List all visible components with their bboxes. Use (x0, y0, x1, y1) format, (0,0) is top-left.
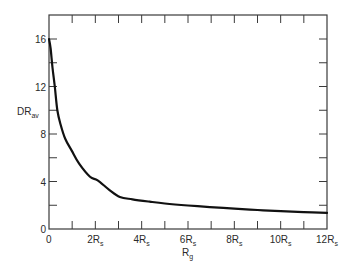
x-axis-label: Rg (182, 247, 193, 261)
data-curve (49, 39, 327, 213)
plot-frame (49, 15, 327, 229)
x-tick-label: 12Rs (316, 234, 338, 247)
x-axis-label-subscript: g (189, 253, 193, 261)
y-axis-tick-labels: 0481216 (35, 34, 47, 235)
y-tick-label: 0 (40, 224, 46, 235)
line-chart-svg: 02Rs4Rs6Rs8Rs10Rs12Rs 0481216 DRav Rg (0, 0, 354, 265)
chart: 02Rs4Rs6Rs8Rs10Rs12Rs 0481216 DRav Rg (0, 0, 354, 265)
x-tick-label: 6Rs (180, 234, 197, 247)
x-axis-tick-labels: 02Rs4Rs6Rs8Rs10Rs12Rs (46, 234, 338, 247)
y-axis-label: DRav (17, 106, 39, 119)
x-tick-label: 4Rs (134, 234, 151, 247)
y-tick-label: 12 (35, 82, 47, 93)
y-tick-label: 16 (35, 34, 47, 45)
y-axis-label-main: DR (17, 106, 31, 117)
y-tick-label: 8 (40, 129, 46, 140)
y-tick-label: 4 (40, 177, 46, 188)
x-tick-label: 10Rs (270, 234, 292, 247)
x-axis-label-main: R (182, 247, 189, 258)
x-tick-label: 8Rs (226, 234, 243, 247)
axis-ticks (49, 15, 327, 229)
x-tick-label: 2Rs (87, 234, 104, 247)
x-tick-label: 0 (46, 234, 52, 245)
y-axis-label-subscript: av (31, 112, 39, 119)
